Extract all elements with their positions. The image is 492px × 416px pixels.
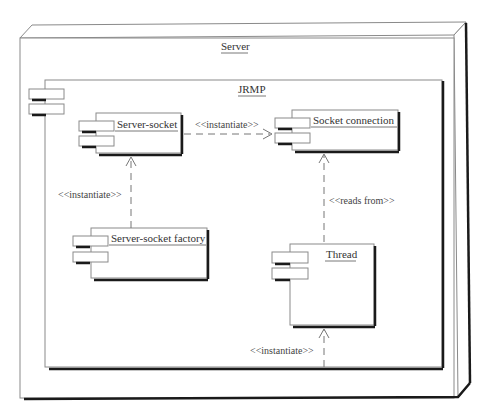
dependency-label: <<instantiate>> xyxy=(250,345,314,356)
server-socket-label: Server-socket xyxy=(117,118,177,130)
thread-label: Thread xyxy=(326,248,358,260)
thread-tab-bottom xyxy=(272,268,308,279)
socket-connection-tab-top xyxy=(275,118,310,128)
server-socket-tab-bottom xyxy=(79,136,114,146)
jrmp-title: JRMP xyxy=(238,83,266,95)
socket-connection-tab-bottom xyxy=(275,133,310,143)
server-node-top-face xyxy=(20,22,466,38)
component-socket-connection: Socket connection xyxy=(275,110,399,152)
jrmp-tab-bottom xyxy=(29,104,64,114)
server-socket-tab-top xyxy=(79,121,114,131)
server-socket-factory-label: Server-socket factory xyxy=(111,232,206,244)
thread-tab-top xyxy=(272,252,308,263)
component-server-socket-factory: Server-socket factory xyxy=(73,228,208,280)
socket-connection-label: Socket connection xyxy=(313,114,394,126)
server-socket-factory-tab-top xyxy=(73,236,108,246)
dependency-label: <<reads from>> xyxy=(329,195,395,206)
server-node-title: Server xyxy=(221,40,250,52)
dependency-label: <<instantiate>> xyxy=(58,189,122,200)
jrmp-tab-top xyxy=(29,89,64,99)
server-socket-factory-tab-bottom xyxy=(73,252,108,262)
uml-diagram: Server JRMP Server-socket Socket xyxy=(0,0,492,416)
dependency-label: <<instantiate>> xyxy=(195,119,259,130)
